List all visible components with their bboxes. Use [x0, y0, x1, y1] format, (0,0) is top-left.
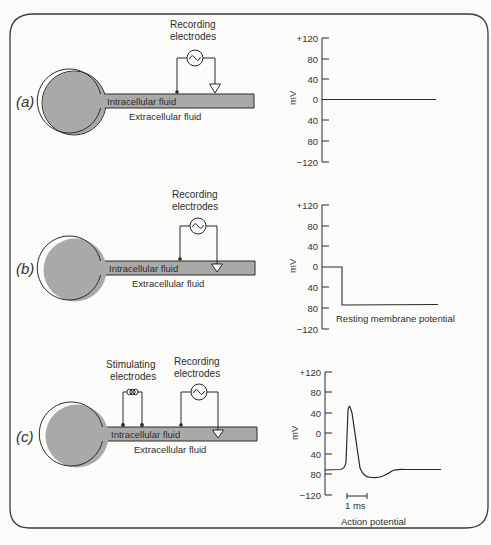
- tick-c-3: 0: [316, 428, 321, 439]
- recording-label-a-1: Recording: [170, 19, 216, 30]
- tick-b-4: 40: [307, 282, 318, 293]
- tick-c-4: 40: [310, 449, 321, 460]
- tick-a-6: −120: [297, 157, 318, 168]
- tick-a-2: 40: [307, 74, 318, 85]
- extracellular-label-b: Extracellular fluid: [132, 278, 204, 289]
- y-axis-unit-c: mV: [289, 425, 300, 440]
- tick-a-0: +120: [297, 33, 318, 44]
- tick-b-3: 0: [313, 261, 318, 272]
- extracellular-label-c: Extracellular fluid: [134, 444, 206, 455]
- panel-a: (a) Intracellular fluid Extracellular fl…: [16, 19, 254, 135]
- electrode-tip-icon: [178, 257, 182, 261]
- chart-c: mV +120 80 40 0 40 80 −120 1 ms Action p…: [289, 367, 441, 527]
- tick-a-3: 0: [313, 94, 318, 105]
- tick-a-1: 80: [307, 54, 318, 65]
- panel-c: (c) Intracellular fluid Extracellular fl…: [16, 356, 257, 468]
- neuron-recording-diagram: (a) Intracellular fluid Extracellular fl…: [0, 0, 491, 545]
- tick-c-0: +120: [300, 367, 321, 378]
- oscilloscope-icon: [187, 50, 203, 66]
- electrode-tip-icon: [179, 423, 183, 427]
- tick-a-4: 40: [307, 115, 318, 126]
- tick-b-0: +120: [297, 200, 318, 211]
- intracellular-label-b: Intracellular fluid: [109, 263, 178, 274]
- caption-action-potential: Action potential: [341, 516, 406, 527]
- trace-c-action-potential: [325, 406, 441, 477]
- caption-resting-potential: Resting membrane potential: [336, 313, 455, 324]
- tick-b-5: 80: [307, 303, 318, 314]
- electrode-tip-icon: [140, 423, 144, 427]
- recording-label-c-2: electrodes: [174, 368, 220, 379]
- stimulator-coil-icon: [123, 389, 142, 395]
- recording-label-c-1: Recording: [174, 356, 220, 367]
- panel-label-b: (b): [16, 260, 34, 277]
- chart-a: mV +120 80 40 0 40 80 −120: [287, 33, 436, 168]
- panel-label-c: (c): [16, 428, 34, 445]
- trace-b: [322, 267, 438, 305]
- y-axis-unit-b: mV: [287, 258, 298, 273]
- recording-label-b-1: Recording: [172, 189, 218, 200]
- extracellular-label-a: Extracellular fluid: [129, 111, 201, 122]
- y-axis-unit-a: mV: [287, 90, 298, 105]
- tick-b-2: 40: [307, 241, 318, 252]
- tick-c-6: −120: [300, 490, 321, 501]
- recording-label-b-2: electrodes: [172, 201, 218, 212]
- intracellular-label-a: Intracellular fluid: [107, 96, 176, 107]
- chart-b: mV +120 80 40 0 40 80 −120 Resting membr…: [287, 200, 455, 335]
- tick-c-5: 80: [310, 469, 321, 480]
- panel-b: (b) Intracellular fluid Extracellular fl…: [16, 189, 255, 302]
- ground-electrode-icon: [210, 84, 221, 93]
- electrode-tip-icon: [121, 423, 125, 427]
- oscilloscope-icon: [191, 384, 207, 400]
- tick-b-6: −120: [297, 324, 318, 335]
- recording-label-a-2: electrodes: [170, 31, 216, 42]
- tick-a-5: 80: [307, 136, 318, 147]
- stimulating-label-2: electrodes: [110, 371, 156, 382]
- panel-label-a: (a): [16, 93, 34, 110]
- tick-c-2: 40: [310, 408, 321, 419]
- electrode-tip-icon: [175, 90, 179, 94]
- tick-c-1: 80: [310, 387, 321, 398]
- scale-bar-1ms: [347, 493, 367, 499]
- scale-bar-label: 1 ms: [345, 500, 366, 511]
- tick-b-1: 80: [307, 221, 318, 232]
- oscilloscope-icon: [190, 218, 206, 234]
- stimulating-label-1: Stimulating: [106, 359, 155, 370]
- intracellular-label-c: Intracellular fluid: [111, 429, 180, 440]
